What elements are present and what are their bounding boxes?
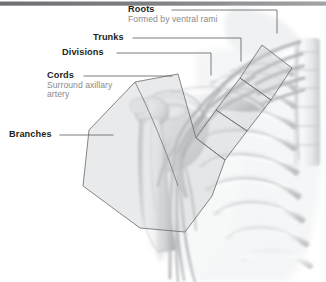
vertebral-column <box>294 38 320 166</box>
label-roots: Roots Formed by ventral rami <box>128 5 217 24</box>
label-trunks-title: Trunks <box>93 33 124 43</box>
label-roots-subtitle: Formed by ventral rami <box>128 15 217 24</box>
brachial-plexus-figure: Roots Formed by ventral rami Trunks Divi… <box>0 0 326 282</box>
label-branches: Branches <box>9 130 52 140</box>
label-cords-subtitle-line2: artery <box>47 90 112 99</box>
label-branches-title: Branches <box>9 130 52 140</box>
anatomical-illustration <box>0 0 326 282</box>
label-divisions-title: Divisions <box>62 48 104 58</box>
label-divisions: Divisions <box>62 48 104 58</box>
label-cords: Cords Surround axillary artery <box>47 71 112 100</box>
label-trunks: Trunks <box>93 33 124 43</box>
